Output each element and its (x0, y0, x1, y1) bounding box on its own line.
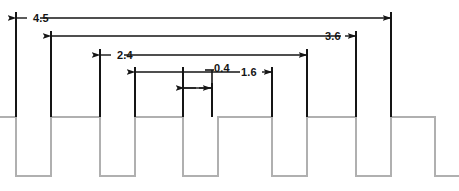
dimension-label-0-4: 0.4 (214, 62, 231, 74)
dimension-3-6: 3.6 (51, 30, 356, 42)
pulse-waveform-path (0, 117, 459, 176)
waveform-group (0, 117, 459, 176)
dimension-drawing-canvas: 4.5 3.6 2.4 1.6 0.4 (0, 0, 459, 191)
dimension-4-5: 4.5 (16, 12, 391, 24)
dimension-label-4-5: 4.5 (33, 12, 49, 24)
dimension-0-4: 0.4 (183, 62, 231, 88)
dimension-label-3-6: 3.6 (325, 30, 341, 42)
dimension-2-4: 2.4 (100, 49, 307, 61)
dimension-label-2-4: 2.4 (117, 49, 134, 61)
extension-lines-group (16, 12, 391, 117)
technical-drawing-svg: 4.5 3.6 2.4 1.6 0.4 (0, 0, 459, 191)
dimension-1-6: 1.6 (135, 66, 272, 78)
dimension-label-1-6: 1.6 (241, 66, 257, 78)
